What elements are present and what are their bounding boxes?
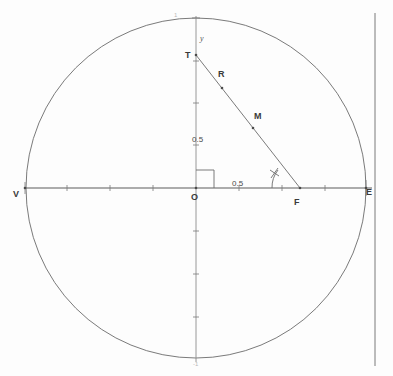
dot-M (252, 127, 255, 130)
bottom-faint-tick-label: -1 (193, 361, 199, 367)
diagram-canvas: y T R M 0.5 0.5 O F V E 1 -1 (0, 0, 393, 376)
dot-V (24, 187, 27, 190)
dot-R (221, 87, 224, 90)
x-tick-half-label: 0.5 (232, 179, 244, 188)
point-markers (24, 54, 368, 190)
dot-O (195, 187, 198, 190)
y-tick-half-label: 0.5 (192, 135, 204, 144)
segment-m-label: M (254, 111, 262, 121)
point-t-label: T (185, 50, 191, 60)
dot-T (195, 54, 198, 57)
point-v-label: V (13, 189, 19, 199)
segment-r-label: R (218, 69, 225, 79)
top-faint-tick-label: 1 (174, 12, 178, 18)
point-f-label: F (294, 197, 300, 207)
y-axis-label: y (199, 34, 204, 43)
dot-F (299, 187, 302, 190)
geometry-diagram: y T R M 0.5 0.5 O F V E 1 -1 (0, 0, 393, 376)
point-e-label: E (366, 187, 372, 197)
segment-tf (196, 55, 300, 188)
origin-label: O (191, 192, 198, 202)
right-angle-marker (196, 170, 214, 188)
